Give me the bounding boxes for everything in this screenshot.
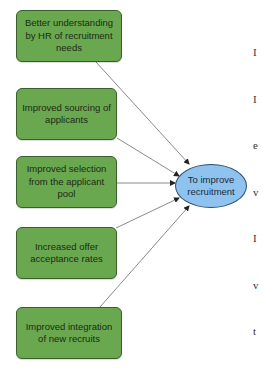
cause-label: Improved integration of new recruits	[21, 321, 117, 346]
cause-label: Better understanding by HR of recruitmen…	[21, 17, 117, 55]
fragment: I	[253, 92, 263, 108]
cause-box-hr-understanding: Better understanding by HR of recruitmen…	[16, 10, 122, 62]
cause-box-sourcing: Improved sourcing of applicants	[16, 88, 117, 140]
fragment: v	[253, 278, 263, 294]
fragment: t	[253, 324, 263, 340]
arrow-4	[116, 198, 179, 228]
recruitment-diagram: Better understanding by HR of recruitmen…	[0, 0, 263, 376]
fragment: a	[253, 371, 263, 376]
fragment: I	[253, 45, 263, 61]
goal-ellipse: To improve recruitment	[175, 164, 247, 208]
fragment: v	[253, 185, 263, 201]
cause-box-offer-acceptance: Increased offer acceptance rates	[16, 227, 117, 279]
fragment: I	[253, 231, 263, 247]
arrow-2	[117, 138, 179, 176]
cause-box-integration: Improved integration of new recruits	[16, 307, 122, 359]
goal-label: To improve recruitment	[176, 174, 246, 199]
cause-label: Improved selection from the applicant po…	[21, 163, 112, 201]
cause-box-selection: Improved selection from the applicant po…	[16, 156, 117, 208]
cause-label: Improved sourcing of applicants	[21, 102, 112, 127]
fragment: e	[253, 138, 263, 154]
adjacent-column-text-fragments: I I e v I v t a r t f j r r r s i - i (	[253, 14, 263, 376]
cause-label: Increased offer acceptance rates	[21, 241, 112, 266]
